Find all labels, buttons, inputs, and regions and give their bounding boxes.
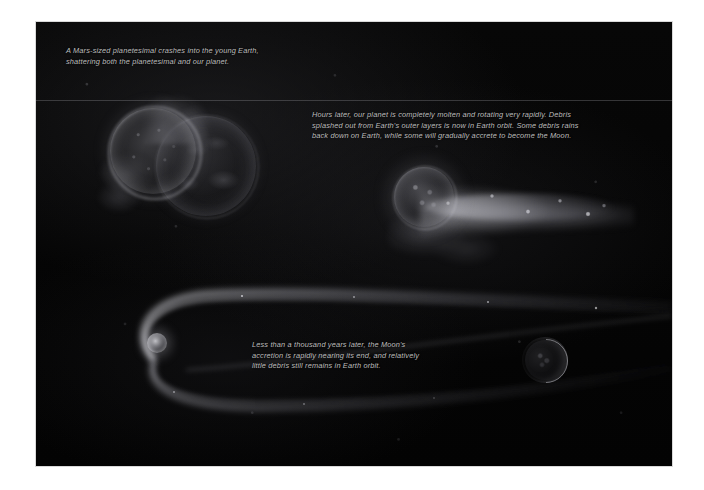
molten-earth-limb: [393, 166, 457, 230]
caption-molten-earth: Hours later, our planet is completely mo…: [312, 110, 642, 142]
debris-mote: [303, 403, 305, 405]
debris-mote: [487, 301, 489, 303]
planetesimal-limb: [108, 106, 202, 200]
caption-moon-accretion: Less than a thousand years later, the Mo…: [252, 340, 482, 372]
page-root: A Mars-sized planetesimal crashes into t…: [0, 0, 704, 490]
debris-mote: [353, 296, 355, 298]
debris-mote: [595, 307, 597, 309]
debris-mote: [173, 391, 175, 393]
late-earth-body: [147, 333, 167, 353]
debris-mote: [241, 295, 243, 297]
orbit-arc-svg: [36, 242, 672, 422]
figure-plate: A Mars-sized planetesimal crashes into t…: [36, 22, 672, 466]
debris-mote: [433, 397, 435, 399]
orbital-debris-arc: [36, 242, 672, 422]
caption-collision: A Mars-sized planetesimal crashes into t…: [66, 46, 366, 67]
